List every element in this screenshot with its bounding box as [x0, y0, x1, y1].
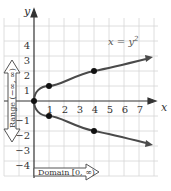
svg-text:5: 5	[107, 104, 113, 115]
svg-text:2: 2	[24, 70, 30, 81]
y-axis-arrow-icon	[31, 9, 37, 17]
svg-text:6: 6	[122, 104, 128, 115]
x-tick-labels: 1 2 3 4 5 6 7	[47, 104, 143, 115]
svg-text:1: 1	[24, 85, 30, 96]
domain-arrow-icon: Domain [0, ∞)	[34, 164, 99, 180]
svg-text:2: 2	[62, 104, 68, 115]
svg-text:Range (−∞, ∞): Range (−∞, ∞)	[8, 68, 17, 128]
svg-text:3: 3	[77, 104, 83, 115]
svg-text:7: 7	[137, 104, 143, 115]
svg-text:−1: −1	[15, 115, 30, 126]
svg-text:1: 1	[47, 104, 53, 115]
y-axis-label: y	[23, 5, 31, 18]
svg-text:3: 3	[24, 55, 30, 66]
equation-label: x = y2	[108, 35, 139, 47]
x-axis-arrow-icon	[148, 98, 156, 104]
svg-text:4: 4	[24, 40, 30, 51]
x-axis-label: x	[161, 101, 168, 114]
svg-text:4: 4	[92, 104, 98, 115]
svg-text:−3: −3	[15, 145, 30, 156]
graph-canvas: 1 2 3 4 5 6 7 4 3 2 1 −1 −2 −3 −4 x y x …	[0, 0, 171, 191]
svg-text:−4: −4	[15, 160, 30, 171]
y-tick-labels: 4 3 2 1 −1 −2 −3 −4	[15, 40, 30, 171]
svg-text:Domain [0, ∞): Domain [0, ∞)	[38, 168, 95, 177]
